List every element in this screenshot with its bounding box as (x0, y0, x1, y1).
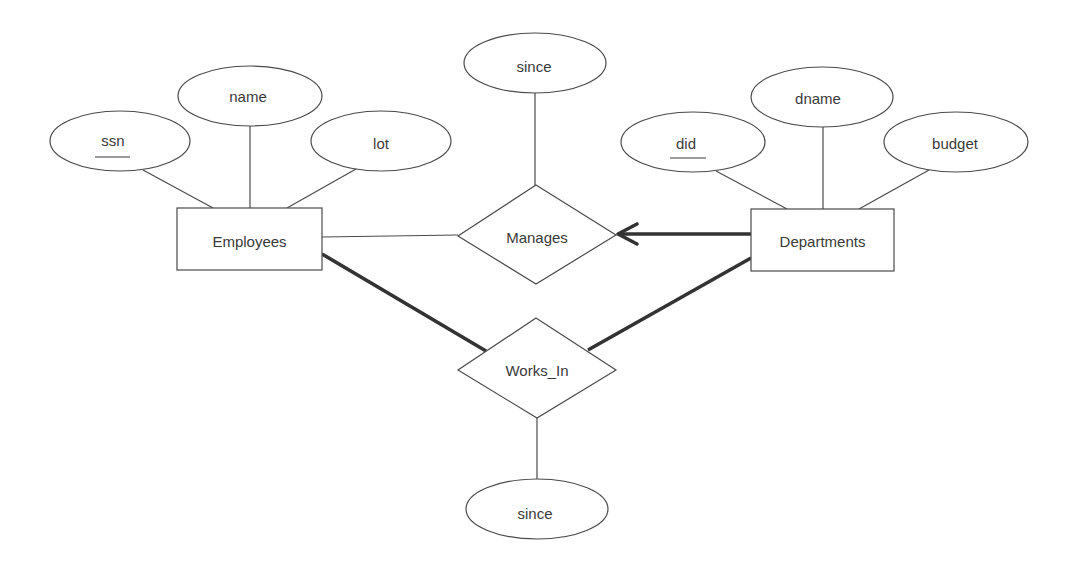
attribute-manages-since[interactable]: since (464, 33, 606, 93)
entity-departments[interactable]: Departments (751, 209, 894, 271)
entity-employees[interactable]: Employees (177, 208, 322, 270)
attribute-label: name (229, 88, 267, 105)
er-diagram: Employees Departments Manages Works_In s… (0, 0, 1076, 574)
link-lot-employees (287, 169, 356, 208)
attribute-ssn[interactable]: ssn (50, 111, 190, 171)
link-ssn-employees (143, 170, 213, 208)
attribute-label: lot (373, 135, 390, 152)
attribute-works-in-since[interactable]: since (466, 479, 608, 539)
relationship-label: Works_In (505, 362, 568, 379)
entity-label: Departments (780, 233, 866, 250)
link-employees-works-in (322, 254, 486, 351)
attribute-label: since (516, 58, 551, 75)
link-departments-works-in (588, 258, 751, 350)
link-employees-manages (322, 235, 458, 237)
attribute-label: did (676, 135, 696, 152)
attribute-name[interactable]: name (178, 66, 322, 126)
attribute-lot[interactable]: lot (311, 111, 451, 171)
link-did-departments (716, 171, 787, 209)
relationship-manages[interactable]: Manages (458, 185, 616, 284)
attribute-label: budget (932, 135, 979, 152)
relationship-label: Manages (506, 229, 568, 246)
attribute-budget[interactable]: budget (884, 112, 1028, 172)
attribute-label: dname (795, 90, 841, 107)
connectors (143, 93, 929, 479)
attribute-label: ssn (101, 132, 124, 149)
attribute-dname[interactable]: dname (751, 67, 893, 127)
relationship-works-in[interactable]: Works_In (458, 318, 616, 418)
link-budget-departments (859, 170, 929, 209)
attribute-label: since (517, 505, 552, 522)
entity-label: Employees (212, 233, 286, 250)
attribute-did[interactable]: did (621, 112, 765, 172)
